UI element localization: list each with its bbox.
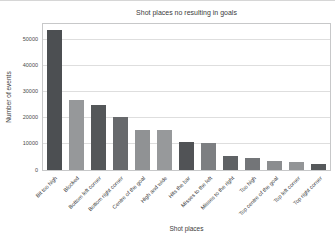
gridline bbox=[43, 117, 330, 118]
y-tick-label: 10000 bbox=[0, 140, 38, 147]
chart-canvas: Shot places no resulting in goals Number… bbox=[0, 0, 335, 244]
bar bbox=[91, 105, 106, 170]
bar bbox=[69, 100, 84, 170]
chart-title: Shot places no resulting in goals bbox=[42, 9, 331, 16]
y-tick-label: 50000 bbox=[0, 36, 38, 43]
gridline bbox=[43, 91, 330, 92]
y-tick-label: 30000 bbox=[0, 88, 38, 95]
gridline bbox=[43, 65, 330, 66]
bar bbox=[289, 162, 304, 170]
bar bbox=[157, 130, 172, 170]
bar bbox=[113, 117, 128, 170]
bar bbox=[267, 161, 282, 170]
bar bbox=[179, 142, 194, 170]
bar bbox=[47, 30, 62, 170]
y-tick-label: 20000 bbox=[0, 114, 38, 121]
bar bbox=[223, 156, 238, 170]
gridline bbox=[43, 39, 330, 40]
bar bbox=[201, 143, 216, 170]
bar bbox=[245, 158, 260, 170]
x-axis-label: Shot places bbox=[42, 225, 331, 232]
y-tick-label: 40000 bbox=[0, 62, 38, 69]
bar bbox=[311, 164, 326, 170]
plot-area bbox=[42, 23, 331, 171]
y-tick-label: 0 bbox=[0, 167, 38, 174]
bar bbox=[135, 130, 150, 170]
